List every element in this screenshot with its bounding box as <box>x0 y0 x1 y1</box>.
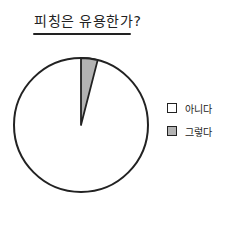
legend-swatch-yes <box>167 126 177 136</box>
legend-item-no: 아니다 <box>167 98 212 118</box>
legend-label-no: 아니다 <box>185 101 212 116</box>
legend-swatch-no <box>167 103 177 113</box>
legend: 아니다 그렇다 <box>167 98 212 144</box>
legend-label-yes: 그렇다 <box>185 124 212 139</box>
legend-item-yes: 그렇다 <box>167 121 212 141</box>
